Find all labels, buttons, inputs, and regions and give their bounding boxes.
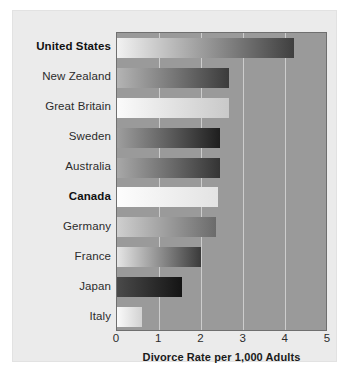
x-axis-ticks: 012345 (116, 332, 327, 348)
category-label: United States (12, 40, 111, 53)
x-tick-label: 2 (188, 332, 212, 344)
bar (117, 277, 182, 297)
bar-row (117, 247, 327, 267)
bar (117, 128, 220, 148)
bar (117, 307, 142, 327)
category-label: Great Britain (12, 100, 111, 113)
category-label: Japan (12, 280, 111, 293)
bar-row (117, 98, 327, 118)
bar (117, 217, 216, 237)
bar (117, 38, 294, 58)
x-tick-label: 4 (273, 332, 297, 344)
category-label: Sweden (12, 130, 111, 143)
bar-row (117, 158, 327, 178)
x-tick-label: 1 (146, 332, 170, 344)
figure-panel: United StatesNew ZealandGreat BritainSwe… (12, 10, 337, 362)
bar (117, 98, 229, 118)
category-label: New Zealand (12, 70, 111, 83)
bar-row (117, 187, 327, 207)
bar (117, 187, 218, 207)
bar-row (117, 307, 327, 327)
plot-area (116, 32, 327, 331)
bar-row (117, 68, 327, 88)
chart-figure: United StatesNew ZealandGreat BritainSwe… (0, 0, 349, 374)
category-label: Germany (12, 220, 111, 233)
bar-row (117, 38, 327, 58)
x-tick-label: 3 (231, 332, 255, 344)
category-label: Australia (12, 160, 111, 173)
bar-row (117, 277, 327, 297)
bar-row (117, 217, 327, 237)
category-axis-labels: United StatesNew ZealandGreat BritainSwe… (12, 32, 111, 331)
bar-row (117, 128, 327, 148)
x-axis-title: Divorce Rate per 1,000 Adults (116, 351, 327, 363)
category-label: Canada (12, 190, 111, 203)
bar (117, 68, 229, 88)
x-tick-label: 5 (315, 332, 339, 344)
bar (117, 158, 220, 178)
x-tick-label: 0 (104, 332, 128, 344)
category-label: Italy (12, 310, 111, 323)
category-label: France (12, 250, 111, 263)
bar (117, 247, 201, 267)
